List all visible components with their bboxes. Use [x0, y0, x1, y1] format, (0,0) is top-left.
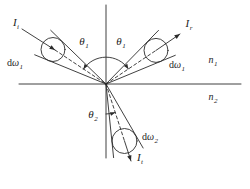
- transmitted-solid-angle-label: dω2: [142, 132, 158, 145]
- incident-intensity-subscript: i: [17, 23, 19, 31]
- incident-beam-cone: [35, 30, 106, 84]
- reflected-ray-arrowhead: [174, 34, 180, 39]
- reflected-solid-angle-label: dω1: [169, 60, 185, 73]
- incident-ray-axis: [55, 50, 106, 84]
- medium-below-symbol: n: [209, 91, 214, 102]
- refraction-angle-arc: [106, 112, 115, 116]
- incident-ray-arrowhead: [49, 45, 55, 50]
- refraction-angle-subscript: 2: [94, 115, 98, 123]
- medium-below-subscript: 2: [214, 96, 218, 104]
- incidence-angle-right-label: θ1: [116, 36, 125, 50]
- medium-below-label: n2: [209, 92, 218, 105]
- incidence-angle-right-subscript: 1: [122, 42, 126, 50]
- incidence-angle-left-symbol: θ: [79, 35, 84, 47]
- optics-interface-diagram: Ii Ir It dω1 dω1 dω2 θ1 θ1 θ2 n1 n2: [0, 0, 250, 189]
- reflected-solid-angle-subscript: 1: [182, 64, 186, 72]
- medium-above-symbol: n: [209, 54, 214, 65]
- incident-solid-angle-symbol: ω: [12, 57, 19, 68]
- reflected-intensity-label: Ir: [186, 18, 193, 32]
- transmitted-solid-angle-subscript: 2: [155, 136, 159, 144]
- transmitted-beam-cone: [106, 84, 143, 158]
- incident-intensity-label: Ii: [13, 17, 19, 31]
- reflected-ray-axis: [106, 50, 156, 84]
- transmitted-intensity-label: It: [137, 152, 143, 166]
- incidence-angle-left-subscript: 1: [85, 42, 89, 50]
- transmitted-intensity-subscript: t: [141, 158, 143, 166]
- refraction-angle-label: θ2: [88, 109, 97, 123]
- medium-above-label: n1: [209, 55, 218, 68]
- transmitted-ray-arrowhead: [127, 155, 131, 161]
- incident-solid-angle-subscript: 1: [20, 62, 24, 70]
- vertex-point: [105, 83, 108, 86]
- incidence-angle-right-symbol: θ: [116, 35, 121, 47]
- incident-solid-angle-label: dω1: [7, 58, 23, 71]
- transmitted-solid-angle-symbol: ω: [147, 131, 154, 142]
- incident-ray: [22, 29, 106, 84]
- refraction-angle-arc-arrowhead: [110, 112, 115, 116]
- incidence-angle-left-label: θ1: [79, 36, 88, 50]
- reflected-intensity-subscript: r: [190, 24, 193, 32]
- reflected-solid-angle-symbol: ω: [174, 59, 181, 70]
- refraction-angle-symbol: θ: [88, 108, 93, 120]
- medium-above-subscript: 1: [214, 59, 218, 67]
